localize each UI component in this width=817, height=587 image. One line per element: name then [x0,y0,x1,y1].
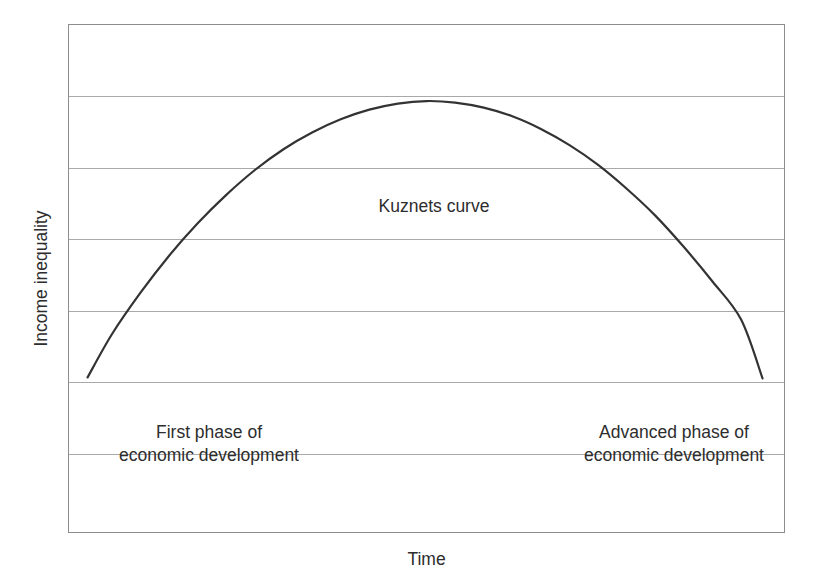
curve-name-label: Kuznets curve [314,195,554,218]
y-axis-title: Income inequality [29,24,53,533]
x-axis-title: Time [68,549,785,570]
phase-right-label: Advanced phase of economic development [544,421,804,468]
curve-path [88,101,763,378]
phase-left-label: First phase of economic development [79,421,339,468]
plot-area: Kuznets curve First phase of economic de… [68,24,785,533]
kuznets-curve-figure: Kuznets curve First phase of economic de… [0,0,817,587]
